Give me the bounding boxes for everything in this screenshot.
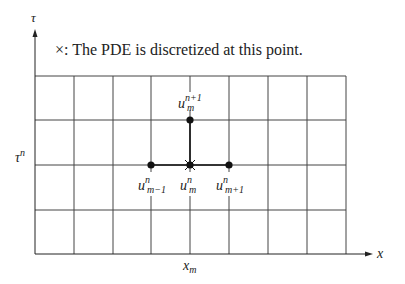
- node-u-m-1-n: [147, 161, 154, 168]
- x-axis-label: x: [376, 246, 384, 261]
- node-u-m+1-n: [225, 161, 232, 168]
- stencil: [151, 120, 229, 165]
- svg-text:×: The PDE is discretized at t: ×: The PDE is discretized at this point.: [55, 41, 303, 59]
- tau-n-label: τn: [15, 147, 25, 165]
- legend-symbol: ×: [55, 41, 64, 58]
- legend: ×: The PDE is discretized at this point.: [55, 41, 303, 59]
- node-u-m-n1: [186, 116, 193, 123]
- tau-axis-label: τ: [31, 10, 37, 25]
- fd-stencil-diagram: ×: The PDE is discretized at this point.…: [0, 0, 405, 284]
- x-axis-arrow-icon: [365, 252, 373, 257]
- legend-text: : The PDE is discretized at this point.: [64, 41, 303, 59]
- axes: [33, 29, 374, 257]
- tau-axis-arrow-icon: [33, 29, 38, 37]
- x-m-label: xm: [182, 258, 196, 275]
